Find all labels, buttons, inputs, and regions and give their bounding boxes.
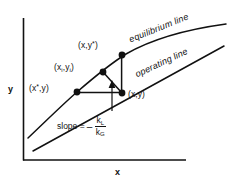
point-xstar-y-label: (x*,y) [29, 84, 49, 93]
slope-fraction: kL kG [95, 116, 106, 136]
marker-point-xi-yi [100, 69, 107, 76]
marker-point-xstar-y [74, 89, 81, 96]
marker-point-x-y [119, 90, 126, 97]
x-axis-label: x [115, 168, 120, 177]
point-x-ystar-label-sup: * [92, 40, 95, 47]
slope-minus-sign: – [87, 121, 93, 132]
slope-word: slope [57, 121, 77, 131]
point-x-ystar-label-tail: ) [95, 40, 98, 50]
mass-transfer-diagram: y x equilibrium line operating line (x,y… [0, 0, 229, 184]
marker-point-x-ystar [119, 52, 126, 59]
point-xstar-y-label-sup: * [36, 83, 39, 90]
point-xi-yi-label-sub1: i [61, 67, 62, 73]
point-x-ystar-label-text: (x,y [78, 40, 92, 50]
slope-annotation: slope = – kL kG [57, 116, 106, 136]
slope-numerator: kL [96, 116, 106, 126]
point-xi-yi-label-sub2: i [70, 67, 71, 73]
point-xi-yi-label-mid: ,y [63, 62, 70, 72]
point-xi-yi-label: (xi,yi) [54, 63, 74, 72]
slope-denominator: kG [95, 127, 106, 137]
point-xstar-y-label-mid: ,y [39, 83, 46, 93]
point-x-y-label: (x,y) [128, 90, 145, 99]
slope-denominator-subscript: G [100, 131, 105, 137]
slope-numerator-subscript: L [101, 120, 104, 126]
point-xi-yi-label-tail: ) [71, 62, 74, 72]
y-axis-label: y [8, 85, 13, 94]
point-xstar-y-label-tail: ) [46, 83, 49, 93]
point-x-ystar-label: (x,y*) [78, 41, 98, 50]
slope-equals: = [80, 121, 85, 131]
